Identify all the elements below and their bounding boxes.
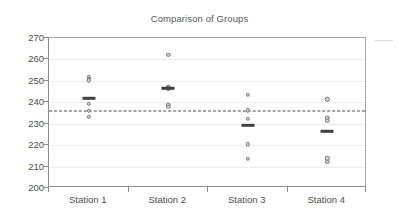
x-tick-mark — [207, 187, 208, 192]
data-point — [246, 117, 250, 121]
data-point — [325, 119, 329, 123]
data-point — [87, 102, 91, 106]
gridline — [49, 59, 365, 60]
y-tick-label: 210 — [10, 160, 44, 171]
data-point — [246, 157, 250, 161]
x-tick-mark — [128, 187, 129, 192]
chart-title: Comparison of Groups — [0, 13, 399, 24]
y-tick-label: 240 — [10, 96, 44, 107]
plot-area — [48, 37, 366, 187]
chart-container: Comparison of Groups 2702602502402302202… — [0, 0, 399, 221]
group-mean-tick — [241, 124, 254, 126]
gridline — [49, 145, 365, 146]
gridline — [49, 124, 365, 125]
data-point — [246, 93, 250, 97]
y-tick-label: 250 — [10, 74, 44, 85]
y-tick-label: 270 — [10, 32, 44, 43]
data-point — [325, 97, 329, 101]
data-point — [87, 78, 91, 82]
gridline — [49, 81, 365, 82]
grand-mean-line — [49, 111, 365, 112]
gridline — [49, 167, 365, 168]
x-tick-mark — [287, 187, 288, 192]
x-tick-label: Station 2 — [149, 194, 187, 205]
x-axis-ticks — [48, 187, 366, 193]
data-point — [325, 160, 329, 164]
data-point — [87, 115, 91, 119]
y-axis: 270260250240230220210200 — [6, 37, 44, 187]
data-point — [166, 52, 170, 56]
x-tick-mark — [365, 187, 366, 192]
data-point — [166, 105, 170, 109]
x-tick-label: Station 4 — [308, 194, 346, 205]
x-tick-label: Station 1 — [69, 194, 107, 205]
page-edge-artifact — [375, 40, 393, 41]
y-tick-label: 200 — [10, 182, 44, 193]
y-tick-label: 220 — [10, 139, 44, 150]
group-mean-tick — [162, 87, 175, 89]
data-point — [87, 109, 91, 113]
x-tick-label: Station 3 — [228, 194, 266, 205]
y-tick-label: 260 — [10, 53, 44, 64]
x-tick-mark — [48, 187, 49, 192]
y-tick-label: 230 — [10, 117, 44, 128]
group-mean-tick — [321, 130, 334, 132]
group-mean-tick — [82, 97, 95, 99]
gridline — [49, 102, 365, 103]
